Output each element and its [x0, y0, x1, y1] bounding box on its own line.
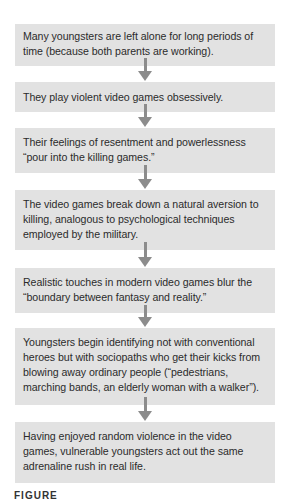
down-arrow-icon [138, 165, 152, 190]
down-arrow-icon [138, 397, 152, 422]
figure-caption: FIGURE [14, 490, 58, 501]
flow-step-text: Having enjoyed random violence in the vi… [23, 430, 243, 472]
flow-step-text: The video games break down a natural ave… [23, 198, 259, 240]
flow-step-6: Youngsters begin identifying not with co… [15, 328, 275, 405]
flow-step-text: Their feelings of resentment and powerle… [23, 136, 246, 163]
flow-step-text: Realistic touches in modern video games … [23, 276, 252, 303]
flow-step-text: Many youngsters are left alone for long … [23, 30, 253, 57]
down-arrow-icon [138, 242, 152, 268]
flow-step-7: Having enjoyed random violence in the vi… [15, 422, 275, 483]
down-arrow-icon [138, 104, 152, 128]
flow-step-text: Youngsters begin identifying not with co… [23, 336, 260, 393]
flow-step-4: The video games break down a natural ave… [15, 190, 275, 250]
down-arrow-icon [138, 58, 152, 82]
down-arrow-icon [138, 305, 152, 328]
flow-step-text: They play violent video games obsessivel… [23, 91, 223, 103]
